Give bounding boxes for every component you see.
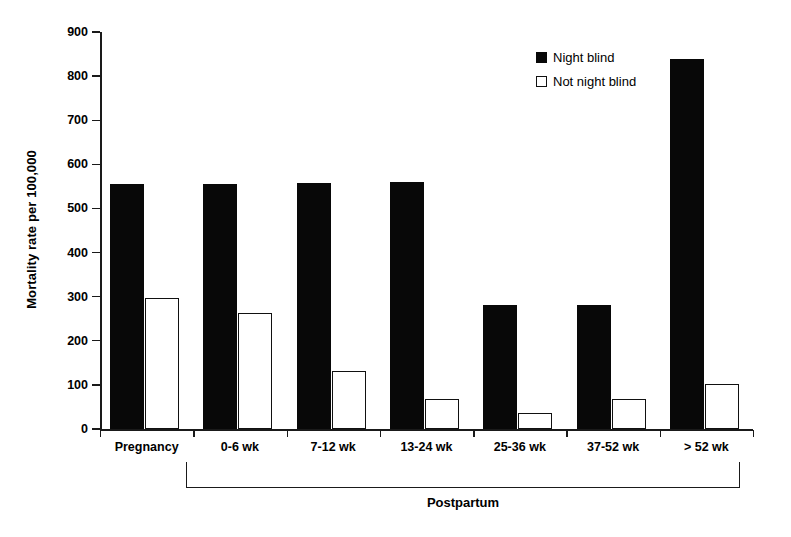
x-axis-category-label: 13-24 wk bbox=[380, 440, 473, 454]
bar-night-blind bbox=[670, 59, 704, 429]
y-axis-tick-label: 600 bbox=[46, 158, 88, 170]
y-axis-tick-label: 0 bbox=[46, 423, 88, 435]
y-axis-tick bbox=[92, 208, 100, 209]
legend-label-not-night-blind: Not night blind bbox=[553, 74, 636, 89]
y-axis-line bbox=[100, 32, 102, 430]
bar-not-night-blind bbox=[612, 399, 646, 429]
chart-legend: Night blind Not night blind bbox=[536, 50, 636, 98]
bar-chart-figure: Mortality rate per 100,000 9008007006005… bbox=[0, 0, 791, 537]
bar-not-night-blind bbox=[145, 298, 179, 429]
y-axis-tick bbox=[92, 31, 100, 32]
bar-night-blind bbox=[390, 182, 424, 429]
x-axis-line bbox=[100, 429, 753, 431]
y-axis-tick-label: 200 bbox=[46, 335, 88, 347]
hollow-square-icon bbox=[536, 76, 547, 87]
y-axis-title: Mortality rate per 100,000 bbox=[24, 115, 39, 345]
bar-night-blind bbox=[203, 184, 237, 429]
y-axis-tick bbox=[92, 384, 100, 385]
y-axis-tick-label: 700 bbox=[46, 114, 88, 126]
filled-square-icon bbox=[536, 52, 547, 63]
x-axis-tick bbox=[193, 430, 194, 437]
x-axis-category-label: 37-52 wk bbox=[566, 440, 659, 454]
x-axis-tick bbox=[753, 430, 754, 437]
x-axis-tick bbox=[380, 430, 381, 437]
bar-not-night-blind bbox=[238, 313, 272, 429]
x-axis-category-label: 0-6 wk bbox=[193, 440, 286, 454]
y-axis-tick-label: 500 bbox=[46, 202, 88, 214]
bar-not-night-blind bbox=[425, 399, 459, 429]
y-axis-tick-label: 400 bbox=[46, 247, 88, 259]
x-axis-tick bbox=[100, 430, 101, 437]
legend-label-night-blind: Night blind bbox=[553, 50, 614, 65]
x-axis-tick bbox=[287, 430, 288, 437]
y-axis-tick bbox=[92, 428, 100, 429]
y-axis-tick bbox=[92, 252, 100, 253]
postpartum-bracket bbox=[186, 462, 740, 488]
x-axis-category-label: > 52 wk bbox=[660, 440, 753, 454]
bar-not-night-blind bbox=[705, 384, 739, 429]
x-axis-category-label: 7-12 wk bbox=[287, 440, 380, 454]
bar-night-blind bbox=[483, 305, 517, 429]
y-axis-tick bbox=[92, 340, 100, 341]
y-axis-tick bbox=[92, 120, 100, 121]
bar-night-blind bbox=[297, 183, 331, 429]
x-axis-tick bbox=[660, 430, 661, 437]
y-axis-tick-label: 100 bbox=[46, 379, 88, 391]
y-axis-tick bbox=[92, 164, 100, 165]
y-axis-tick-label: 800 bbox=[46, 70, 88, 82]
x-axis-tick bbox=[473, 430, 474, 437]
bar-night-blind bbox=[577, 305, 611, 429]
y-axis-tick bbox=[92, 75, 100, 76]
bar-night-blind bbox=[110, 184, 144, 429]
bar-not-night-blind bbox=[518, 413, 552, 429]
legend-item-night-blind: Night blind bbox=[536, 50, 636, 65]
y-axis-tick-label: 300 bbox=[46, 291, 88, 303]
y-axis-tick-label: 900 bbox=[46, 26, 88, 38]
x-axis-category-label: 25-36 wk bbox=[473, 440, 566, 454]
bar-not-night-blind bbox=[332, 371, 366, 429]
y-axis-tick bbox=[92, 296, 100, 297]
legend-item-not-night-blind: Not night blind bbox=[536, 74, 636, 89]
x-axis-tick bbox=[566, 430, 567, 437]
postpartum-bracket-label: Postpartum bbox=[186, 495, 740, 510]
x-axis-category-label: Pregnancy bbox=[100, 440, 193, 454]
